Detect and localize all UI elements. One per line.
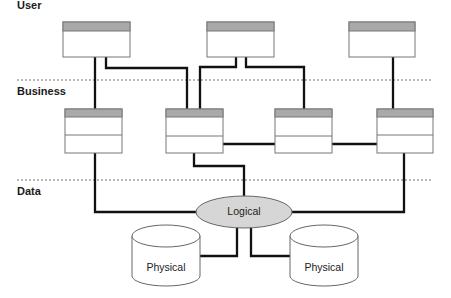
business-component-4: [377, 109, 433, 153]
physical-database-left: [132, 225, 200, 286]
physical-right-label: Physical: [290, 261, 358, 273]
connector-user1-business2: [106, 57, 187, 109]
user-component-1: [63, 22, 130, 57]
physical-database-right: [290, 225, 358, 286]
business-component-2: [166, 109, 223, 153]
physical-left-label: Physical: [132, 261, 200, 273]
connector-business2-logical: [194, 153, 244, 196]
connector-logical-physical-left: [200, 227, 237, 256]
business-component-1: [65, 109, 122, 153]
business-component-3: [275, 109, 332, 153]
architecture-diagram: [0, 0, 451, 298]
logical-label: Logical: [204, 205, 284, 217]
connector-business4-logical: [292, 153, 404, 212]
connector-business1-logical: [95, 153, 196, 212]
connector-logical-physical-right: [251, 227, 290, 256]
connector-user2-business2: [200, 57, 236, 109]
user-component-2: [207, 22, 274, 57]
user-component-3: [349, 22, 415, 57]
connector-user2-business3: [246, 57, 304, 109]
